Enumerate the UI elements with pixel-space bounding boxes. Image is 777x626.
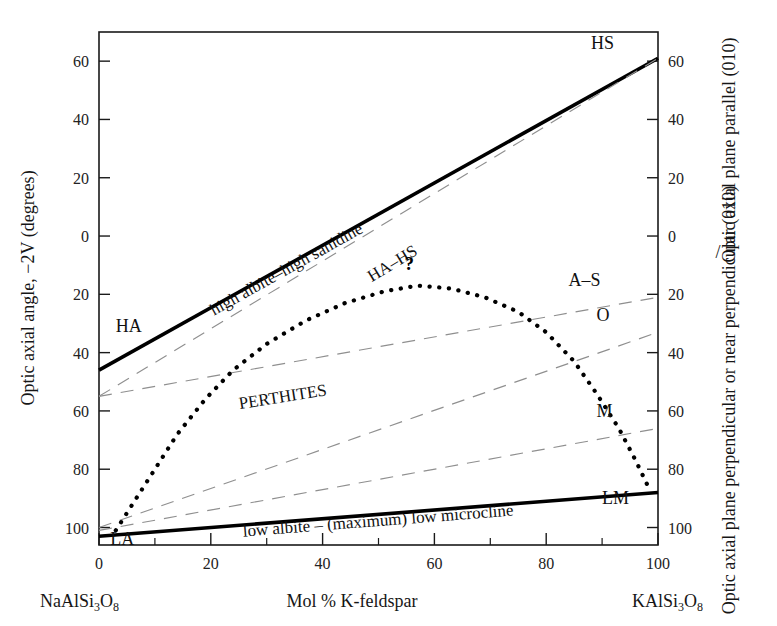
- x-tick-label: 80: [538, 555, 554, 572]
- end-label-a-s: A–S: [569, 270, 601, 290]
- end-label-ha: HA: [116, 316, 142, 336]
- y-tick-label-left: 100: [65, 520, 89, 537]
- x-axis-left-endmember: NaAlSi3O8: [40, 591, 119, 614]
- y-tick-label-right: 60: [668, 403, 684, 420]
- y-tick-label-left: 40: [73, 111, 89, 128]
- end-label-lm: LM: [602, 488, 629, 508]
- x-tick-label: 100: [646, 555, 670, 572]
- y-tick-label-right: 60: [668, 53, 684, 70]
- x-tick-label: 40: [315, 555, 331, 572]
- y-tick-label-right: 40: [668, 111, 684, 128]
- end-label-la: LA: [110, 529, 134, 549]
- y-tick-label-left: 0: [81, 228, 89, 245]
- x-axis-title: Mol % K-feldspar: [287, 591, 418, 611]
- y-tick-label-right: 100: [668, 520, 692, 537]
- y-tick-label-right: 40: [668, 345, 684, 362]
- y-tick-label-right: 0: [668, 228, 676, 245]
- right-axis-label-separator: /: [715, 242, 720, 262]
- y-tick-label-left: 60: [73, 53, 89, 70]
- y-tick-label-left: 20: [73, 286, 89, 303]
- x-tick-label: 60: [426, 555, 442, 572]
- y-tick-label-right: 20: [668, 170, 684, 187]
- x-tick-label: 0: [95, 555, 103, 572]
- end-label-o: O: [597, 305, 610, 325]
- y-tick-label-right: 20: [668, 286, 684, 303]
- y-tick-label-left: 20: [73, 170, 89, 187]
- y-tick-label-left: 40: [73, 345, 89, 362]
- y-tick-label-right: 80: [668, 461, 684, 478]
- y-tick-label-left: 60: [73, 403, 89, 420]
- y-axis-title: Optic axial angle, −2V (degrees): [18, 170, 39, 405]
- y-tick-label-left: 80: [73, 461, 89, 478]
- chart-figure: 6060404020200020204040606080801001000204…: [0, 0, 777, 626]
- x-tick-label: 20: [203, 555, 219, 572]
- end-label-m: M: [597, 401, 613, 421]
- x-axis-right-endmember: KAlSi3O8: [632, 591, 703, 614]
- annotation-question-mark: ?: [404, 253, 414, 274]
- right-axis-title-lower: Optic axial plane perpendicular or near …: [719, 186, 740, 614]
- end-label-hs: HS: [591, 33, 614, 53]
- optic-axial-angle-chart: 6060404020200020204040606080801001000204…: [0, 0, 777, 626]
